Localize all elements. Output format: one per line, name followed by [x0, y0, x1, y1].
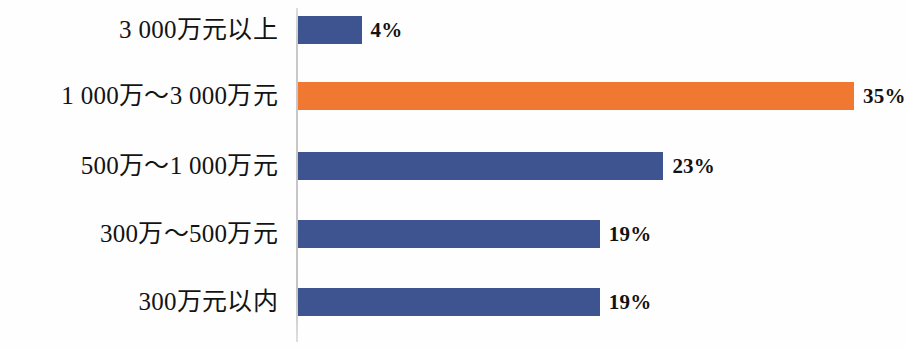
bar-group: 35%: [298, 82, 906, 110]
bar-group: 19%: [298, 288, 651, 316]
bar-row: 3 000万元以上 4%: [0, 0, 904, 60]
bar-value-label: 23%: [672, 154, 715, 179]
bar-value-label: 19%: [609, 290, 652, 315]
bar-group: 4%: [298, 16, 402, 44]
bar-group: 19%: [298, 220, 651, 248]
category-label: 500万～1 000万元: [0, 152, 278, 180]
bar-row: 500万～1 000万元 23%: [0, 136, 904, 196]
bar[interactable]: [298, 220, 600, 248]
category-label: 3 000万元以上: [0, 16, 278, 44]
bar-row: 300万～500万元 19%: [0, 204, 904, 264]
category-label: 300万元以内: [0, 288, 278, 316]
bar-value-label: 4%: [371, 18, 403, 43]
bar-value-label: 19%: [609, 222, 652, 247]
bar-row: 1 000万～3 000万元 35%: [0, 66, 904, 126]
bar[interactable]: [298, 152, 663, 180]
category-label: 300万～500万元: [0, 220, 278, 248]
bar[interactable]: [298, 288, 600, 316]
bar[interactable]: [298, 82, 854, 110]
category-label: 1 000万～3 000万元: [0, 82, 278, 110]
bar-group: 23%: [298, 152, 715, 180]
bar-value-label: 35%: [863, 84, 906, 109]
bar-row: 300万元以内 19%: [0, 272, 904, 332]
bar[interactable]: [298, 16, 362, 44]
